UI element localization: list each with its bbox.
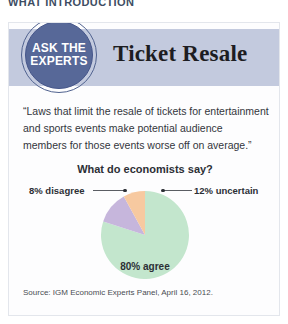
leader-line-disagree — [93, 190, 125, 191]
pie-label-disagree: 8% disagree — [29, 185, 84, 196]
leader-dot-uncertain — [161, 189, 165, 193]
card-title: Ticket Resale — [113, 41, 247, 67]
ask-the-experts-card: Ticket Resale ASK THE EXPERTS “Laws that… — [8, 22, 280, 316]
source-note: Source: IGM Economic Experts Panel, Apri… — [23, 288, 213, 297]
leader-dot-disagree — [123, 189, 127, 193]
pie-chart-svg — [97, 189, 193, 279]
ask-the-experts-badge: ASK THE EXPERTS — [21, 22, 97, 93]
expert-question-quote: “Laws that limit the resale of tickets f… — [23, 103, 269, 154]
pie-chart: What do economists say? 8% disagree 12% … — [9, 163, 280, 281]
leader-line-uncertain — [164, 190, 192, 191]
pie-label-uncertain: 12% uncertain — [194, 185, 258, 196]
badge-label-line2: EXPERTS — [30, 55, 87, 68]
page-running-head: WHAT INTRODUCTION — [8, 0, 208, 10]
badge-inner-circle: ASK THE EXPERTS — [25, 22, 93, 89]
chart-title: What do economists say? — [9, 163, 280, 175]
